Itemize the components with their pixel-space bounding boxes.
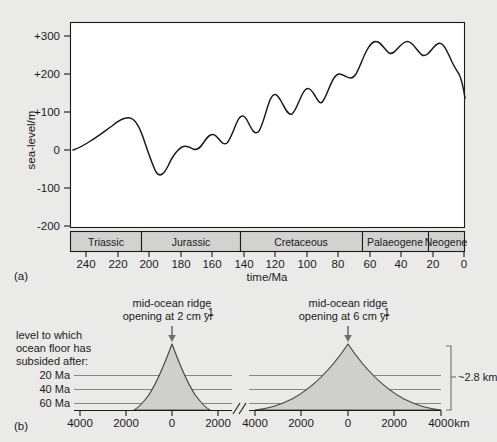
depth-annotation-label: ~2.8 km bbox=[458, 371, 497, 383]
figure-container: +300 +200 +100 0 -100 -200 sea-level/m T… bbox=[0, 0, 497, 442]
ridge-right-tick-label: 2000 bbox=[288, 417, 314, 429]
geologic-period-bar: Triassic Jurassic Cretaceous Palaeogene … bbox=[71, 232, 468, 252]
period-label-cretaceous: Cretaceous bbox=[274, 236, 328, 248]
ridge-right-tick-label: 0 bbox=[345, 417, 351, 429]
period-label-neogene: Neogene bbox=[425, 236, 468, 248]
ridge-left-axis-ticks bbox=[80, 411, 218, 417]
ridge-axis-unit-label: km bbox=[454, 417, 469, 429]
ridge-2-title-line1: mid-ocean ridge bbox=[309, 297, 388, 309]
ridge-1-arrow-icon bbox=[168, 326, 176, 342]
subsidence-label-60ma: 60 Ma bbox=[39, 397, 70, 409]
x-axis-tick-labels: 240 220 200 180 160 140 120 100 80 60 40… bbox=[76, 258, 467, 270]
subsidence-label-40ma: 40 Ma bbox=[39, 383, 70, 395]
ridge-right-tick-label: 4000 bbox=[428, 417, 454, 429]
x-tick-label: 100 bbox=[297, 258, 316, 270]
x-tick-label: 0 bbox=[461, 258, 467, 270]
x-axis-ticks bbox=[86, 252, 464, 258]
x-tick-label: 180 bbox=[171, 258, 190, 270]
ridge-left-tick-label: 2000 bbox=[113, 417, 139, 429]
x-tick-label: 20 bbox=[427, 258, 440, 270]
ridge-left-tick-label: 0 bbox=[169, 417, 175, 429]
depth-bracket bbox=[446, 346, 456, 410]
ridge-2-arrow-icon bbox=[344, 326, 352, 342]
period-label-triassic: Triassic bbox=[88, 236, 124, 248]
x-tick-label: 160 bbox=[202, 258, 221, 270]
subsidence-caption: level to which ocean floor has subsided … bbox=[16, 329, 92, 367]
y-tick-label: +300 bbox=[34, 30, 60, 42]
panel-a: +300 +200 +100 0 -100 -200 sea-level/m T… bbox=[14, 23, 467, 284]
ridge-profile-6cm bbox=[255, 344, 441, 410]
figure-svg: +300 +200 +100 0 -100 -200 sea-level/m T… bbox=[0, 0, 497, 442]
y-axis-ticks bbox=[64, 36, 71, 226]
x-axis-title: time/Ma bbox=[247, 271, 289, 283]
ridge-2-rate-exponent: -1 bbox=[380, 306, 390, 318]
ridge-right-axis-labels: 4000 2000 0 2000 4000 bbox=[242, 417, 454, 429]
ridge-right-tick-label: 2000 bbox=[381, 417, 407, 429]
ridge-1-title-line2: opening at 2 cm yr bbox=[123, 310, 214, 322]
y-tick-label: -200 bbox=[37, 220, 60, 232]
y-axis-title: sea-level/m bbox=[25, 111, 37, 170]
period-label-jurassic: Jurassic bbox=[172, 236, 211, 248]
period-label-palaeogene: Palaeogene bbox=[367, 236, 423, 248]
subsidence-label-20ma: 20 Ma bbox=[39, 369, 70, 381]
ridge-1-title: mid-ocean ridge opening at 2 cm yr -1 bbox=[123, 297, 214, 322]
y-axis-tick-labels: +300 +200 +100 0 -100 -200 bbox=[34, 30, 60, 232]
ridge-2-title: mid-ocean ridge opening at 6 cm yr -1 bbox=[299, 297, 390, 322]
ridge-right-tick-label: 4000 bbox=[242, 417, 268, 429]
panel-a-label: (a) bbox=[14, 270, 28, 282]
y-tick-label: +200 bbox=[34, 68, 60, 80]
x-tick-label: 120 bbox=[265, 258, 284, 270]
x-tick-label: 240 bbox=[76, 258, 95, 270]
ridge-1-title-line1: mid-ocean ridge bbox=[133, 297, 212, 309]
ridge-left-tick-label: 2000 bbox=[205, 417, 231, 429]
caption-line-3: subsided after: bbox=[16, 355, 88, 367]
caption-line-1: level to which bbox=[16, 329, 82, 341]
axis-break-icon bbox=[233, 403, 246, 414]
ridge-left-axis-labels: 4000 2000 0 2000 bbox=[67, 417, 231, 429]
ridge-1-rate-exponent: -1 bbox=[204, 306, 214, 318]
panel-b: level to which ocean floor has subsided … bbox=[14, 297, 497, 432]
ridge-2-title-line2: opening at 6 cm yr bbox=[299, 310, 390, 322]
ridge-right-axis-ticks bbox=[255, 411, 441, 417]
x-tick-label: 40 bbox=[395, 258, 408, 270]
x-tick-label: 60 bbox=[364, 258, 377, 270]
subsidence-age-labels: 20 Ma 40 Ma 60 Ma bbox=[39, 369, 70, 409]
panel-b-label: (b) bbox=[14, 420, 28, 432]
ridge-left-tick-label: 4000 bbox=[67, 417, 93, 429]
ridge-profile-2cm bbox=[134, 344, 210, 410]
x-tick-label: 200 bbox=[139, 258, 158, 270]
y-tick-label: 0 bbox=[54, 144, 60, 156]
y-tick-label: -100 bbox=[37, 182, 60, 194]
sea-level-plot-area bbox=[71, 23, 465, 228]
y-tick-label: +100 bbox=[34, 106, 60, 118]
x-tick-label: 80 bbox=[332, 258, 345, 270]
x-tick-label: 140 bbox=[234, 258, 253, 270]
caption-line-2: ocean floor has bbox=[16, 342, 92, 354]
x-tick-label: 220 bbox=[108, 258, 127, 270]
